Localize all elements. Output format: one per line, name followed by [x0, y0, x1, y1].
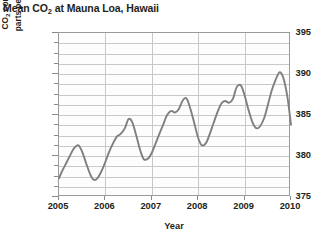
x-axis-tick	[151, 196, 152, 200]
x-axis-tick	[244, 196, 245, 200]
chart-figure: Mean CO2 at Mauna Loa, Hawaii CO2 concen…	[0, 0, 311, 238]
x-axis-tick	[290, 196, 291, 200]
y-axis-title-main: CO	[0, 17, 10, 29]
x-axis-title: Year	[58, 221, 290, 231]
x-axis-tick	[197, 196, 198, 200]
co2-trend-path	[59, 72, 291, 180]
x-axis-tick	[58, 196, 59, 200]
chart-title-main: Mean CO	[3, 2, 48, 14]
x-axis-tick-label: 2007	[131, 201, 171, 211]
x-axis-tick-label: 2009	[224, 201, 264, 211]
data-series-line	[59, 33, 291, 197]
x-axis-tick-label: 2006	[84, 201, 124, 211]
x-axis-tick-label: 2005	[38, 201, 78, 211]
x-axis-tick-label: 2010	[270, 201, 310, 211]
x-axis-tick	[104, 196, 105, 200]
chart-title-rest: at Mauna Loa, Hawaii	[52, 2, 159, 14]
plot-area	[58, 32, 290, 196]
chart-title: Mean CO2 at Mauna Loa, Hawaii	[3, 2, 159, 16]
x-axis-tick-label: 2008	[177, 201, 217, 211]
